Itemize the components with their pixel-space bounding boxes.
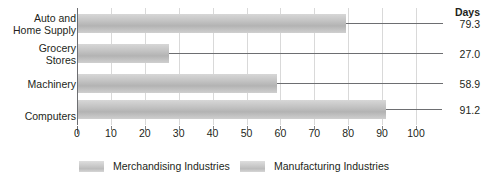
category-label-machinery: Machinery [28, 78, 76, 90]
value-label-auto-and-home-supply: 79.3 [446, 18, 480, 30]
bar-auto-and-home-supply [77, 14, 346, 33]
legend-item-manufacturing-industries: Manufacturing Industries [240, 160, 389, 172]
chart-legend: Merchandising Industries Manufacturing I… [0, 160, 488, 180]
days-column-header: Days [446, 6, 480, 18]
horizontal-bar-chart: Auto and Home Supply Grocery Stores Mach… [0, 0, 488, 183]
xtick-label-20: 20 [139, 127, 151, 139]
xtick-label-50: 50 [241, 127, 253, 139]
leader-line-machinery [277, 83, 443, 84]
xtick-label-30: 30 [173, 127, 185, 139]
leader-line-auto-and-home-supply [346, 23, 443, 24]
category-label-auto-and-home-supply: Auto and Home Supply [13, 12, 76, 36]
legend-swatch-manufacturing-icon [240, 161, 265, 172]
category-label-grocery-stores: Grocery Stores [39, 42, 76, 66]
xtick-label-80: 80 [342, 127, 354, 139]
legend-item-merchandising-industries: Merchandising Industries [79, 160, 230, 172]
plot-area [77, 8, 416, 125]
legend-swatch-merchandising-icon [79, 161, 104, 172]
xtick-label-40: 40 [207, 127, 219, 139]
xtick-label-70: 70 [308, 127, 320, 139]
category-label-computers: Computers [25, 110, 76, 122]
value-label-machinery: 58.9 [446, 78, 480, 90]
legend-label-merchandising-industries: Merchandising Industries [113, 160, 230, 172]
leader-line-grocery-stores [169, 53, 443, 54]
xtick-label-100: 100 [407, 127, 425, 139]
value-label-grocery-stores: 27.0 [446, 48, 480, 60]
legend-label-manufacturing-industries: Manufacturing Industries [274, 160, 389, 172]
xtick-label-10: 10 [105, 127, 117, 139]
bar-computers [77, 100, 386, 119]
xtick-label-60: 60 [275, 127, 287, 139]
xtick-label-90: 90 [376, 127, 388, 139]
gridline-100 [416, 8, 417, 125]
xtick-label-0: 0 [74, 127, 80, 139]
bar-machinery [77, 74, 277, 93]
leader-line-computers [386, 109, 442, 110]
y-axis-line [77, 8, 78, 134]
value-label-computers: 91.2 [446, 104, 480, 116]
x-axis-line [77, 125, 417, 126]
bar-grocery-stores [77, 44, 169, 63]
